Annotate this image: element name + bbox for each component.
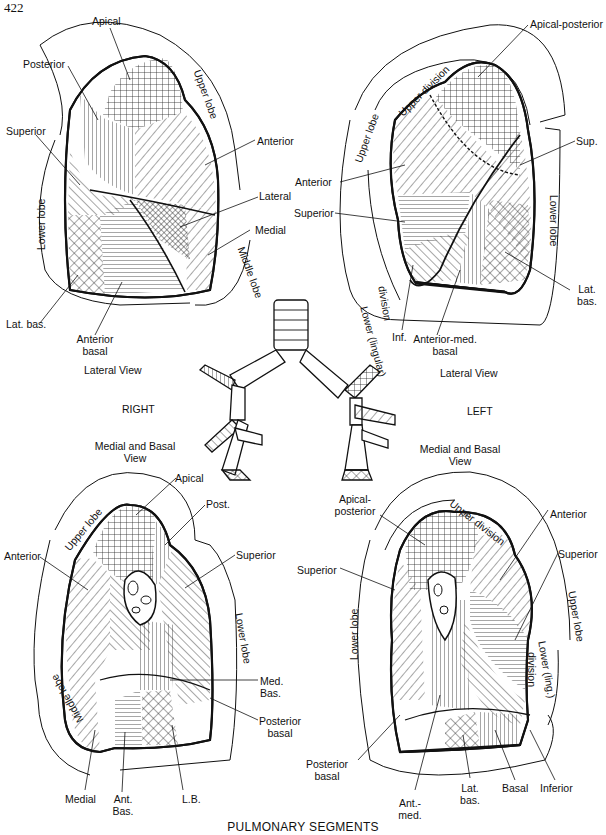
label-posterior-basal: Posteriorbasal [255,715,305,739]
label-posterior-basal: Posteriorbasal [302,758,352,782]
label-posterior: Posterior [23,58,65,70]
side-label-right: RIGHT [122,403,155,415]
label-lat-bas: Lat. bas. [6,318,46,330]
page-number: 422 [4,0,24,16]
left-lung-lateral-view [335,25,575,335]
label-anterior: Anterior [257,135,294,147]
label-superior: Superior [6,125,46,137]
label-apical: Apical [175,472,204,484]
lobe-lower-lobe: Lower lobe [348,609,360,660]
view-label-left-medial: Medial and BasalView [405,443,515,467]
label-ant-bas: Ant.Bas. [108,793,138,817]
side-label-left: LEFT [467,405,493,417]
label-apical: Apical [92,15,121,27]
label-anterior-basal: Anteriorbasal [70,333,120,357]
label-post: Post. [206,498,230,510]
label-medial: Medial [255,224,286,236]
view-label-right-lateral: Lateral View [84,364,142,376]
label-superior-left: Superior [297,564,337,576]
label-med-bas: Med.Bas. [260,675,283,699]
label-lat-bas: Lat.bas. [455,782,485,806]
label-superior-right: Superior [558,548,598,560]
right-lung-medial-basal-view [34,473,258,792]
label-apical-posterior: Apical-posterior [530,18,603,30]
label-anterior: Anterior [4,550,41,562]
view-label-left-lateral: Lateral View [440,367,498,379]
left-lung-medial-basal-view [340,472,570,790]
label-ant-med: Ant.-med. [395,797,425,821]
label-anterior: Anterior [295,176,332,188]
view-label-right-medial: Medial and BasalView [80,440,190,464]
label-medial: Medial [65,793,96,805]
label-sup: Sup. [576,135,598,147]
label-lb: L.B. [182,793,201,805]
label-anterior-med-basal: Anterior-med.basal [405,333,485,357]
right-lung-lateral-view [36,22,258,335]
label-inferior: Inferior [540,782,573,794]
lobe-lower-lobe: Lower lobe [548,195,560,246]
figure-title: PULMONARY SEGMENTS [0,820,606,834]
label-superior: Superior [294,207,334,219]
label-superior: Superior [236,549,276,561]
label-apical-posterior: Apical-posterior [325,493,385,517]
label-anterior: Anterior [550,508,587,520]
pulmonary-segments-illustration [0,0,606,835]
label-basal: Basal [502,782,528,794]
lobe-lower-lobe: Lower lobe [35,199,47,250]
label-lateral: Lateral [259,190,291,202]
lobe-division: division [526,652,538,687]
label-lat-bas: Lat.bas. [572,283,602,307]
